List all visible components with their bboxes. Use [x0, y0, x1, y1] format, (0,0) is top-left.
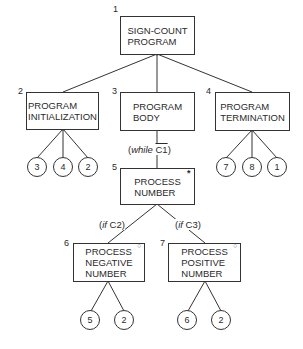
- node-number-4: 4: [206, 86, 211, 96]
- node-label-line: SIGN-COUNT: [127, 25, 187, 36]
- node-program-initialization: PROGRAM INITIALIZATION: [26, 92, 99, 130]
- condition-prefix: (while: [128, 144, 155, 155]
- node-label-line: POSITIVE: [181, 257, 227, 268]
- condition-negated-c1: C1: [155, 144, 167, 155]
- node-number-1: 1: [113, 4, 118, 14]
- operation-circle: 2: [211, 310, 231, 330]
- node-program-body: PROGRAM BODY: [120, 92, 195, 131]
- operation-circle: 2: [78, 157, 98, 177]
- operation-circle: 3: [27, 157, 47, 177]
- operation-circle: 5: [80, 310, 100, 330]
- node-number-6: 6: [64, 238, 69, 248]
- condition-suffix: ): [168, 144, 171, 155]
- node-label-line: PROGRAM: [133, 101, 182, 112]
- node-label-line: PROCESS: [181, 246, 227, 257]
- operation-circle: 4: [53, 157, 73, 177]
- structure-chart: 1 SIGN-COUNT PROGRAM 2 PROGRAM INITIALIZ…: [0, 0, 303, 349]
- operation-circle: 2: [114, 310, 134, 330]
- node-label-line: INITIALIZATION: [28, 111, 97, 122]
- node-process-positive-number: PROCESS POSITIVE NUMBER: [168, 243, 241, 282]
- condition-c2: C2): [110, 219, 125, 230]
- node-number-7: 7: [160, 238, 165, 248]
- node-label-line: NEGATIVE: [85, 257, 132, 268]
- node-label-line: PROCESS: [85, 246, 132, 257]
- node-number-2: 2: [18, 86, 23, 96]
- node-number-3: 3: [112, 86, 117, 96]
- operation-circle: 1: [267, 157, 287, 177]
- node-process-negative-number: PROCESS NEGATIVE NUMBER: [73, 243, 145, 282]
- node-program-termination: PROGRAM TERMINATION: [215, 92, 290, 131]
- operation-circle: 8: [242, 157, 262, 177]
- node-label-line: NUMBER: [134, 187, 180, 198]
- node-label-line: PROGRAM: [127, 36, 187, 47]
- operation-circle: 6: [177, 310, 197, 330]
- node-label-line: TERMINATION: [220, 112, 285, 123]
- while-condition-label: (while C1): [128, 144, 171, 155]
- condition-prefix: (if: [99, 219, 110, 230]
- node-label-line: NUMBER: [181, 268, 227, 279]
- node-process-number: PROCESS NUMBER: [120, 168, 195, 205]
- condition-c3: C3): [186, 219, 201, 230]
- node-label-line: PROGRAM: [28, 100, 97, 111]
- condition-prefix: (if: [175, 219, 186, 230]
- node-label-line: PROGRAM: [220, 101, 285, 112]
- selection-marker-icon: ○: [233, 242, 237, 249]
- selection-marker-icon: ○: [137, 242, 141, 249]
- iteration-marker-icon: *: [187, 168, 191, 178]
- node-label-line: NUMBER: [85, 268, 132, 279]
- node-number-5: 5: [112, 162, 117, 172]
- operation-circle: 7: [216, 157, 236, 177]
- if-c2-condition-label: (if C2): [99, 219, 125, 230]
- node-sign-count-program: SIGN-COUNT PROGRAM: [120, 16, 195, 55]
- node-label-line: BODY: [133, 112, 182, 123]
- if-c3-condition-label: (if C3): [175, 219, 201, 230]
- node-label-line: PROCESS: [134, 176, 180, 187]
